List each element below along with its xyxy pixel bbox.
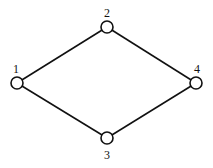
node-4: [190, 77, 202, 89]
node-label-2: 2: [104, 6, 110, 20]
node-2: [101, 21, 113, 33]
edge-3-4: [107, 83, 196, 138]
edge-1-2: [17, 27, 107, 83]
nodes: [11, 21, 202, 144]
node-3: [101, 132, 113, 144]
node-label-4: 4: [194, 62, 200, 76]
node-1: [11, 77, 23, 89]
edge-1-3: [17, 83, 107, 138]
node-label-3: 3: [104, 148, 110, 162]
node-label-1: 1: [13, 62, 19, 76]
edge-2-4: [107, 27, 196, 83]
edges: [17, 27, 196, 138]
graph-diagram: 1 2 3 4: [0, 0, 213, 168]
